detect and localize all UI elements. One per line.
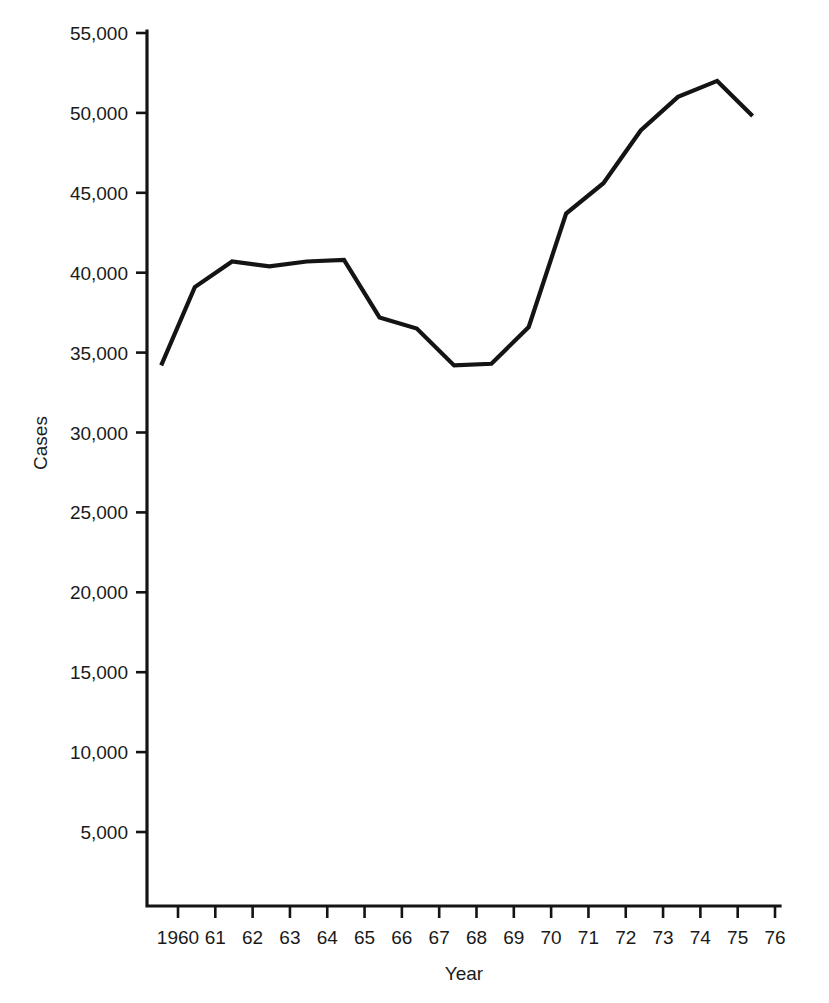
y-axis-title: Cases: [30, 416, 51, 470]
x-axis-tick-labels: 196061626364656667686970717273747576: [157, 927, 786, 948]
y-tick-label: 5,000: [80, 822, 128, 843]
x-tick-label: 70: [541, 927, 562, 948]
x-tick-label: 62: [242, 927, 263, 948]
y-tick-label: 35,000: [70, 343, 128, 364]
y-tick-label: 45,000: [70, 183, 128, 204]
data-series-line: [161, 81, 752, 366]
y-tick-label: 20,000: [70, 582, 128, 603]
x-tick-label: 67: [429, 927, 450, 948]
x-tick-label: 72: [615, 927, 636, 948]
x-tick-label: 66: [391, 927, 412, 948]
x-axis-title: Year: [445, 963, 484, 984]
y-tick-label: 55,000: [70, 23, 128, 44]
x-tick-label: 68: [466, 927, 487, 948]
x-tick-label: 64: [317, 927, 339, 948]
y-axis-tick-marks: [136, 33, 147, 832]
y-tick-label: 25,000: [70, 502, 128, 523]
x-tick-label: 65: [354, 927, 375, 948]
y-tick-label: 30,000: [70, 423, 128, 444]
y-tick-label: 50,000: [70, 103, 128, 124]
y-tick-label: 10,000: [70, 742, 128, 763]
x-tick-label: 1960: [157, 927, 199, 948]
x-tick-label: 61: [205, 927, 226, 948]
x-tick-label: 76: [764, 927, 785, 948]
x-tick-label: 71: [578, 927, 599, 948]
x-tick-label: 73: [652, 927, 673, 948]
y-axis-tick-labels: 5,00010,00015,00020,00025,00030,00035,00…: [70, 23, 128, 843]
line-chart: 5,00010,00015,00020,00025,00030,00035,00…: [0, 0, 829, 1003]
x-tick-label: 63: [279, 927, 300, 948]
y-tick-label: 40,000: [70, 263, 128, 284]
x-tick-label: 75: [727, 927, 748, 948]
x-axis-tick-marks: [178, 906, 775, 918]
axis-lines: [147, 31, 780, 906]
chart-canvas: 5,00010,00015,00020,00025,00030,00035,00…: [0, 0, 829, 1003]
x-tick-label: 74: [690, 927, 712, 948]
y-tick-label: 15,000: [70, 662, 128, 683]
x-tick-label: 69: [503, 927, 524, 948]
